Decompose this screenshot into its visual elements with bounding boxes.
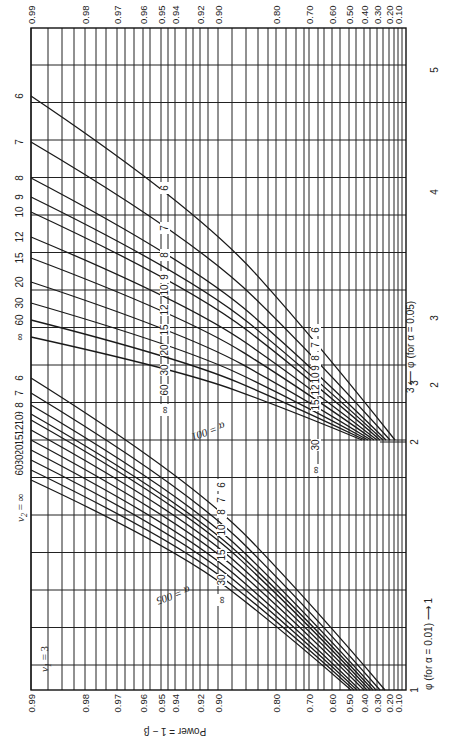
curve-label: 60: [14, 314, 25, 326]
curve-label: 6: [14, 375, 25, 381]
power-tick-label: 0.10: [393, 694, 404, 713]
svg-text:ν1 = 3: ν1 = 3: [38, 645, 53, 672]
power-tick-label: 0.90: [213, 694, 224, 713]
power-tick-label: 0.10: [393, 6, 404, 25]
power-axis-title: Power = 1 − β: [144, 726, 207, 736]
curve-label: ∞: [14, 333, 25, 340]
curve-label: 6: [310, 327, 321, 333]
power-gridlines: [31, 28, 402, 690]
curve-label: 7: [14, 139, 25, 145]
curve-label: ∞: [216, 596, 227, 603]
curve-label: 8: [14, 402, 25, 408]
power-curve: [31, 237, 377, 440]
curve-label: 12: [159, 304, 170, 316]
power-tick-label: 0.97: [112, 6, 123, 25]
power-tick-label: 0.70: [304, 6, 315, 25]
curve-label: 12: [14, 231, 25, 243]
power-tick-label: 0.50: [344, 694, 355, 713]
curve-label: 30: [14, 297, 25, 309]
curve-label: 60: [14, 464, 25, 476]
curve-label: 7: [310, 342, 321, 348]
power-tick-label: 0.94: [170, 6, 181, 25]
power-tick-label: 0.60: [327, 694, 338, 713]
power-tick-label: 0.92: [195, 694, 206, 713]
curve-label: 10: [14, 206, 25, 218]
power-tick-label: 0.99: [26, 6, 37, 25]
curve-label: 20: [14, 276, 25, 288]
power-tick-label: 0.80: [271, 6, 282, 25]
power-tick-label: 0.95: [156, 6, 167, 25]
power-tick-label: 0.30: [372, 694, 383, 713]
curve-label: 7: [159, 225, 170, 231]
svg-text:ν2 = ∞: ν2 = ∞: [14, 493, 29, 522]
curve-label: 12: [310, 384, 321, 396]
curve-label: 10: [310, 372, 321, 384]
curve-label: 8: [310, 355, 321, 361]
curve-label: 20: [14, 444, 25, 456]
curve-label: 6: [14, 93, 25, 99]
curve-label: 10: [159, 284, 170, 296]
power-tick-label: 0.99: [26, 694, 37, 713]
power-tick-label: 0.98: [80, 6, 91, 25]
power-tick-label: 0.92: [195, 6, 206, 25]
curve-label: 8: [216, 509, 227, 515]
power-chart: 6789101215203060∞67891012152030606789101…: [0, 0, 453, 736]
power-tick-label: 0.40: [359, 6, 370, 25]
phi-tick-label: 3: [429, 315, 440, 321]
curve-label: 30: [216, 574, 227, 586]
curve-label: 10: [216, 524, 227, 536]
power-tick-label: 0.97: [112, 694, 123, 713]
curve-label: 6: [159, 185, 170, 191]
curve-label: 15: [14, 434, 25, 446]
curve-label: 30: [159, 364, 170, 376]
curve-label: ∞: [310, 466, 321, 473]
curve-label: 7: [216, 497, 227, 503]
curve-label: 15: [216, 549, 227, 561]
curve-label: 15: [14, 252, 25, 264]
curve-label: 8: [14, 175, 25, 181]
phi-tick-label: 5: [429, 67, 440, 73]
phi-tick-label: 1: [409, 687, 420, 693]
curve-label: 20: [159, 344, 170, 356]
power-tick-label: 0.40: [359, 694, 370, 713]
curve-label: 9: [14, 194, 25, 200]
phi-alpha-005-title: 3 ⟵ φ (for α = 0.05): [405, 301, 416, 393]
curve-label: 10: [14, 414, 25, 426]
power-tick-label: 0.70: [304, 694, 315, 713]
curve-label: 7: [14, 390, 25, 396]
power-tick-label: 0.30: [372, 6, 383, 25]
curve-label: 8: [159, 252, 170, 258]
curve-label: 9: [310, 365, 321, 371]
curve-label: 15: [159, 324, 170, 336]
nu2-label: ν2 = ∞: [14, 493, 29, 522]
power-curve: [31, 480, 351, 690]
power-tick-label: 0.50: [344, 6, 355, 25]
curve-label: 9: [159, 274, 170, 280]
power-tick-label: 0.94: [170, 694, 181, 713]
phi-tick-label: 2: [429, 382, 440, 388]
power-axis-bottom-labels: 0.990.980.970.960.950.940.920.900.800.70…: [26, 694, 404, 713]
phi-tick-label: 2: [409, 439, 420, 445]
nu1-label: ν1 = 3: [38, 645, 53, 672]
curve-label: ∞: [159, 406, 170, 413]
curve-label: 30: [14, 454, 25, 466]
power-tick-label: 0.80: [271, 694, 282, 713]
phi-tick-label: 4: [429, 189, 440, 195]
curve-label: 15: [310, 399, 321, 411]
power-tick-label: 0.98: [80, 694, 91, 713]
power-tick-label: 0.95: [156, 694, 167, 713]
curve-label: 12: [14, 424, 25, 436]
power-axis-top-labels: 0.990.980.970.960.950.940.920.900.800.70…: [26, 6, 404, 25]
curve-label: 6: [216, 482, 227, 488]
power-tick-label: 0.90: [213, 6, 224, 25]
curve-label: 60: [159, 384, 170, 396]
phi-alpha-001-title: φ (for α = 0.01) ⟶ 1: [423, 597, 434, 690]
power-tick-label: 0.60: [327, 6, 338, 25]
power-tick-label: 0.96: [138, 6, 149, 25]
curve-label: 30: [310, 439, 321, 451]
power-curve: [31, 212, 380, 440]
power-tick-label: 0.96: [138, 694, 149, 713]
